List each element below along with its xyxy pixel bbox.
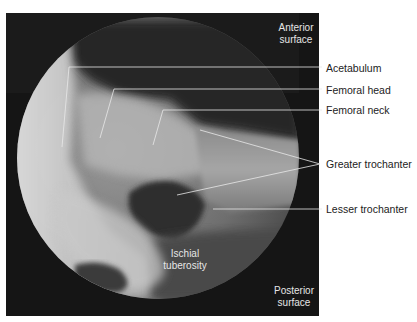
callout-femoral-neck: Femoral neck xyxy=(326,104,390,116)
ischial-line: Ischial xyxy=(155,248,215,260)
posterior-line: Posterior xyxy=(268,285,320,297)
radiograph-figure: Anterior surface Posterior surface Ischi… xyxy=(0,0,417,322)
callout-acetabulum: Acetabulum xyxy=(326,62,381,74)
tuberosity-line: tuberosity xyxy=(155,260,215,272)
callout-greater-trochanter: Greater trochanter xyxy=(326,158,412,170)
callout-lesser-trochanter: Lesser trochanter xyxy=(326,203,408,215)
posterior-surface-label: Posterior surface xyxy=(268,285,320,309)
callout-femoral-head: Femoral head xyxy=(326,84,391,96)
surface-line: surface xyxy=(272,34,320,46)
anterior-surface-label: Anterior surface xyxy=(272,22,320,46)
ischial-tuberosity-label: Ischial tuberosity xyxy=(155,248,215,272)
surface-line: surface xyxy=(268,297,320,309)
anterior-line: Anterior xyxy=(272,22,320,34)
